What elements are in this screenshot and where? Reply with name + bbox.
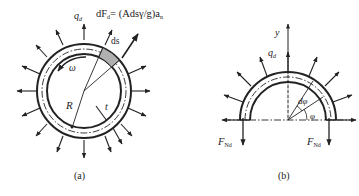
panel-b: y qd dφ φ FNd FNd (b): [217, 24, 356, 182]
panel-a: qd dFd= (Adsγ/g)an ds ω R t (a): [17, 8, 163, 182]
dphi-arc: [297, 106, 302, 111]
figure-canvas: qd dFd= (Adsγ/g)an ds ω R t (a): [0, 0, 359, 196]
element-label-ds: ds: [111, 36, 120, 46]
caption-b: (b): [278, 170, 290, 182]
left-force-label: FNd: [217, 136, 232, 148]
load-label-a: qd: [74, 10, 83, 22]
radius-endpoint: [71, 126, 74, 129]
thickness-label: t: [105, 101, 108, 112]
phi-arc: [304, 109, 307, 120]
radius-label: R: [65, 99, 73, 111]
force-formula: dFd= (Adsγ/g)an: [96, 8, 163, 20]
caption-a: (a): [74, 170, 85, 182]
right-force-label: FNd: [306, 136, 321, 148]
y-axis-label: y: [274, 27, 280, 38]
load-label-b: qd: [268, 47, 277, 59]
end-forces: [243, 118, 329, 145]
radius-line: [72, 91, 84, 128]
phi-label: φ: [310, 111, 315, 121]
dphi-label: dφ: [298, 96, 308, 106]
omega-label: ω: [69, 63, 76, 73]
